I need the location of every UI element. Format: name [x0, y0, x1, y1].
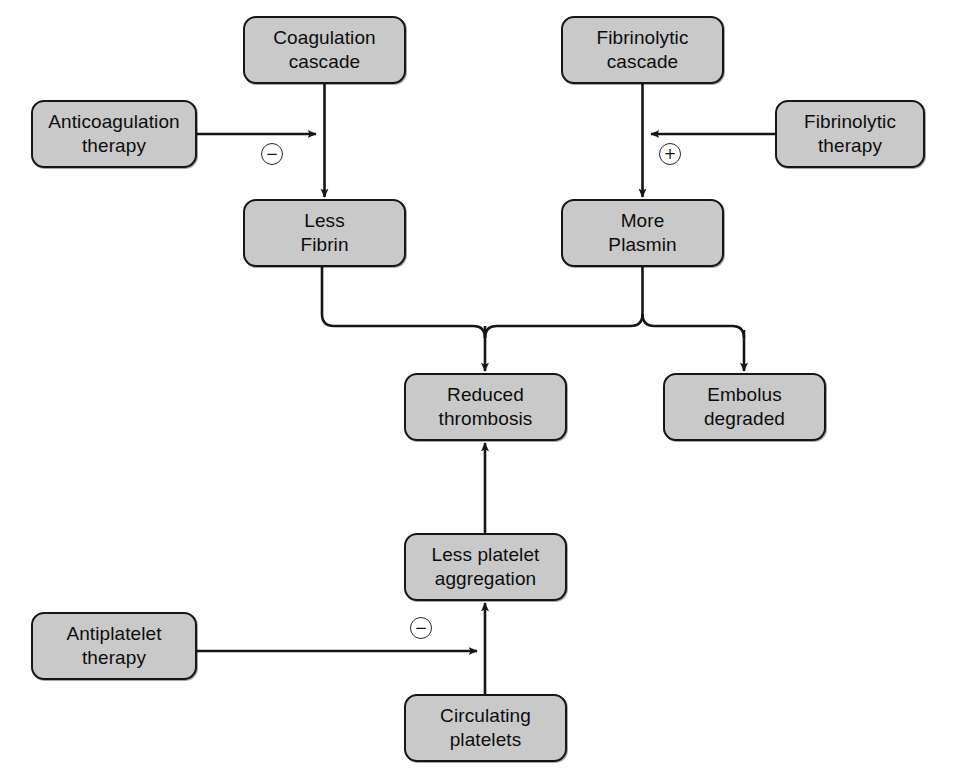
minus-sign-glyph: −: [266, 147, 279, 162]
edge-plasmin-junction-right: [643, 314, 745, 338]
node-circulating-platelets[interactable]: Circulating platelets: [404, 694, 567, 762]
node-coagulation-cascade[interactable]: Coagulation cascade: [243, 16, 406, 84]
node-antiplatelet-therapy[interactable]: Antiplatelet therapy: [31, 612, 197, 680]
node-less-fibrin[interactable]: Less Fibrin: [243, 199, 406, 267]
node-label-fibrinolytic-cascade: Fibrinolytic cascade: [591, 26, 695, 75]
node-less-platelet-aggregation[interactable]: Less platelet aggregation: [404, 533, 567, 601]
node-fibrinolytic-cascade[interactable]: Fibrinolytic cascade: [561, 16, 724, 84]
node-label-reduced-thrombosis: Reduced thrombosis: [433, 383, 539, 432]
node-label-fibrinolytic-therapy: Fibrinolytic therapy: [798, 110, 902, 159]
plus-sign-icon-fibrinolytic: +: [659, 143, 681, 165]
node-label-embolus-degraded: Embolus degraded: [698, 383, 791, 432]
plus-sign-glyph: +: [664, 147, 677, 162]
node-label-more-plasmin: More Plasmin: [602, 209, 682, 258]
edge-plasmin-junction-left: [485, 314, 643, 338]
node-label-less-fibrin: Less Fibrin: [294, 209, 354, 258]
node-more-plasmin[interactable]: More Plasmin: [561, 199, 724, 267]
node-label-anticoagulation-therapy: Anticoagulation therapy: [42, 110, 185, 159]
node-label-antiplatelet-therapy: Antiplatelet therapy: [60, 622, 167, 671]
node-label-circulating-platelets: Circulating platelets: [434, 704, 537, 753]
edge-less-fibrin-to-junction: [322, 267, 485, 338]
flowchart-canvas: Coagulation cascade Fibrinolytic cascade…: [0, 0, 953, 768]
node-anticoagulation-therapy[interactable]: Anticoagulation therapy: [31, 100, 197, 168]
minus-sign-icon-coagulation: −: [261, 143, 283, 165]
minus-sign-icon-antiplatelet: −: [410, 617, 432, 639]
node-reduced-thrombosis[interactable]: Reduced thrombosis: [404, 373, 567, 441]
node-label-coagulation-cascade: Coagulation cascade: [267, 26, 382, 75]
node-fibrinolytic-therapy[interactable]: Fibrinolytic therapy: [775, 100, 925, 168]
node-label-less-platelet-aggregation: Less platelet aggregation: [426, 543, 546, 592]
minus-sign-glyph-antiplatelet: −: [415, 621, 428, 636]
node-embolus-degraded[interactable]: Embolus degraded: [663, 373, 826, 441]
